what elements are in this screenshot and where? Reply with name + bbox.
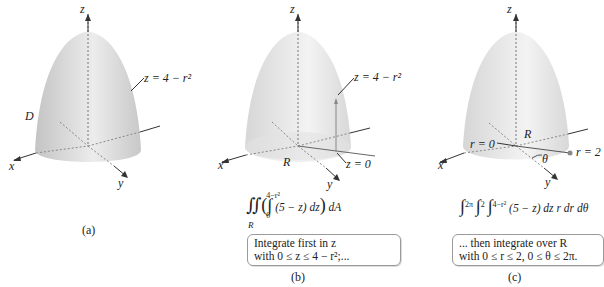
axis-z-label-b: z (290, 2, 295, 17)
paraboloid-c (439, 14, 588, 180)
upper-limit: 4−r² (266, 191, 280, 200)
region-subscript: R (248, 220, 254, 230)
paraboloid-b (221, 14, 375, 181)
upper-limit-z: 4−r² (493, 200, 507, 209)
axis-y-label-a: y (118, 176, 123, 191)
axis-y-label-c: y (545, 175, 550, 190)
region-label-d: D (25, 109, 34, 124)
region-label-r-b: R (283, 155, 290, 170)
region-label-r-c: R (524, 127, 531, 142)
upper-limit-r: 2 (481, 200, 485, 209)
axis-x-label-c: x (438, 158, 443, 173)
note-line-2: with 0 ≤ z ≤ 4 − r²;... (254, 250, 394, 263)
note-line-2-c: with 0 ≤ r ≤ 2, 0 ≤ θ ≤ 2π. (459, 250, 597, 263)
outer-differential: dA (329, 201, 342, 213)
caption-c: (c) (508, 270, 521, 285)
paraboloid-a (13, 14, 160, 178)
axis-z-label-c: z (507, 2, 512, 17)
integrand: (5 − z) dz (275, 201, 320, 213)
axis-z-label-a: z (80, 2, 85, 17)
caption-a: (a) (82, 223, 95, 238)
note-line-1: Integrate first in z (254, 237, 394, 250)
r2-label: r = 2 (576, 145, 601, 160)
formula-c: ∫2π ∫2 ∫4−r² (5 − z) dz r dr dθ (460, 196, 588, 217)
note-box-b: Integrate first in z with 0 ≤ z ≤ 4 − r²… (247, 234, 401, 266)
axis-x-label-b: x (218, 158, 223, 173)
surface-equation-b: z = 4 − r² (354, 70, 401, 85)
axis-x-label-a: x (9, 159, 14, 174)
r0-label: r = 0 (470, 137, 495, 152)
caption-b: (b) (291, 270, 305, 285)
theta-label: θ (542, 152, 548, 167)
note-line-1-c: ... then integrate over R (459, 237, 597, 250)
note-box-c: ... then integrate over R with 0 ≤ r ≤ 2… (452, 234, 604, 266)
surface-equation-a: z = 4 − r² (144, 71, 191, 86)
lower-limit: 0 (266, 211, 270, 220)
integrand-c: (5 − z) dz r dr dθ (509, 202, 588, 214)
base-equation-b: z = 0 (346, 157, 371, 172)
axis-y-label-b: y (327, 177, 332, 192)
upper-limit-theta: 2π (465, 200, 473, 209)
formula-b: ∬(∫4−r²0 (5 − z) dz) dA (246, 194, 341, 216)
